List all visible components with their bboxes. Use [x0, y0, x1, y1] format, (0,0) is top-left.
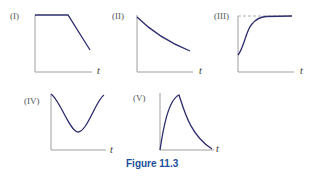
- panel-2-graph: [137, 15, 193, 72]
- panel-5-label: (V): [133, 93, 146, 103]
- panel-2-axes: [137, 15, 193, 72]
- panel-4-t-label: t: [110, 144, 113, 155]
- panel-4-graph: [51, 94, 106, 150]
- panel-1-label: (I): [10, 11, 19, 21]
- figure-canvas: [0, 0, 316, 183]
- panel-1-t-label: t: [97, 65, 100, 76]
- panel-2-label: (II): [112, 11, 124, 21]
- panel-3-curve: [238, 16, 292, 55]
- panel-5-axes: [160, 93, 214, 150]
- panel-4-curve: [51, 94, 104, 132]
- panel-4-label: (IV): [24, 96, 40, 106]
- panel-3-t-label: t: [300, 65, 303, 76]
- panel-1-axes: [35, 15, 92, 72]
- panel-3-graph: [238, 16, 294, 72]
- panel-3-axes: [238, 16, 294, 72]
- figure-caption: Figure 11.3: [126, 158, 178, 169]
- panel-1-curve: [35, 15, 90, 50]
- panel-2-curve: [137, 17, 190, 51]
- panel-1-graph: [35, 15, 92, 72]
- panel-5-curve: [160, 95, 212, 150]
- panel-3-label: (III): [214, 11, 229, 21]
- panel-2-t-label: t: [199, 65, 202, 76]
- panel-5-t-label: t: [216, 143, 219, 154]
- panel-5-graph: [160, 93, 214, 150]
